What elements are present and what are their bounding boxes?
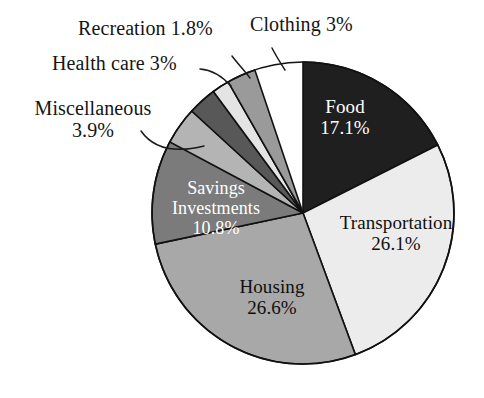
pie-label-health-care: Health care 3% xyxy=(52,53,177,75)
pie-label-savings-investments: Savings Investments 10.8% xyxy=(146,178,286,238)
pie-label-food-value: 17.1% xyxy=(295,117,395,138)
pie-label-recreation: Recreation 1.8% xyxy=(78,18,213,40)
pie-label-food-name: Food xyxy=(295,96,395,117)
pie-label-clothing: Clothing 3% xyxy=(250,14,353,36)
pie-label-transportation-name: Transportation xyxy=(312,212,480,233)
pie-label-health-care-text: Health care 3% xyxy=(52,53,177,75)
pie-label-housing-value: 26.6% xyxy=(207,297,337,318)
pie-label-clothing-text: Clothing 3% xyxy=(250,14,353,36)
pie-label-transportation-value: 26.1% xyxy=(312,233,480,254)
pie-label-savings-value: 10.8% xyxy=(146,218,286,238)
pie-label-recreation-text: Recreation 1.8% xyxy=(78,18,213,40)
pie-label-housing: Housing 26.6% xyxy=(207,276,337,319)
pie-label-miscellaneous-value: 3.9% xyxy=(18,120,168,142)
pie-label-savings-name: Savings xyxy=(146,178,286,198)
pie-label-transportation: Transportation 26.1% xyxy=(312,212,480,255)
pie-label-food: Food 17.1% xyxy=(295,96,395,139)
pie-label-miscellaneous: Miscellaneous 3.9% xyxy=(18,98,168,141)
pie-label-miscellaneous-name: Miscellaneous xyxy=(18,98,168,120)
pie-label-savings-name2: Investments xyxy=(146,198,286,218)
pie-label-housing-name: Housing xyxy=(207,276,337,297)
pie-chart-figure: Recreation 1.8% Clothing 3% Health care … xyxy=(0,0,484,398)
leader-line-clothing xyxy=(272,48,285,70)
